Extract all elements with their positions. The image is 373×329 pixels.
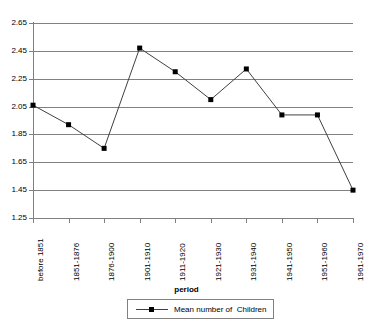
line-chart: 2.652.452.252.051.851.651.451.25 before …: [0, 0, 373, 329]
legend: Mean number of Children: [127, 299, 274, 319]
x-axis-tick-label: 1951-1960: [320, 243, 329, 281]
x-axis-tick-label: 1921-1930: [214, 243, 223, 281]
data-point-marker: [208, 97, 213, 102]
x-axis-tick-label: before 1851: [36, 238, 45, 281]
series-line-mean-number-of-children: [33, 48, 353, 190]
data-point-marker: [315, 112, 320, 117]
legend-marker-icon: [136, 305, 168, 314]
x-axis-title: period: [0, 285, 373, 294]
x-axis-tick-label: 1876-1900: [107, 243, 116, 281]
x-axis-tick-label: 1851-1876: [72, 243, 81, 281]
x-axis-tick-label: 1931-1940: [249, 243, 258, 281]
data-point-marker: [102, 146, 107, 151]
data-point-marker: [279, 112, 284, 117]
plot-area: 2.652.452.252.051.851.651.451.25: [0, 0, 373, 232]
legend-label: Mean number of Children: [174, 305, 267, 314]
x-axis-tick-label: 1901-1910: [143, 243, 152, 281]
x-axis-tick-label: 1961-1970: [356, 243, 365, 281]
data-point-marker: [66, 122, 71, 127]
x-axis-tick-labels: before 18511851-18761876-19001901-191019…: [0, 223, 373, 289]
data-point-marker: [351, 188, 356, 193]
data-point-marker: [31, 103, 36, 108]
data-point-marker: [244, 66, 249, 71]
series-markers: [31, 46, 356, 193]
data-point-marker: [173, 69, 178, 74]
data-point-marker: [137, 46, 142, 51]
data-series-layer: [0, 0, 373, 232]
x-axis-tick-label: 1911-1920: [178, 243, 187, 281]
x-axis-tick-label: 1941-1950: [285, 243, 294, 281]
